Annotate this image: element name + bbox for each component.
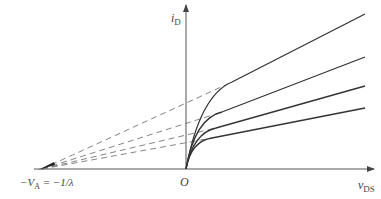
curve-3	[186, 86, 365, 169]
y-axis-label: iD	[171, 11, 181, 27]
early-voltage-label: −VA = −1/λ	[20, 176, 74, 191]
x-axis-label: vDS	[358, 178, 375, 194]
mosfet-output-diagram: iD vDS O −VA = −1/λ	[0, 0, 381, 199]
extrapolation-lines	[42, 82, 232, 169]
characteristic-curves	[186, 14, 365, 169]
origin-label: O	[180, 175, 189, 189]
curve-4	[186, 108, 365, 169]
